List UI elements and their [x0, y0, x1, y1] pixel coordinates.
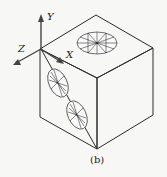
y-arrow-icon [38, 14, 44, 22]
top-ellipse-mesh [77, 32, 117, 54]
x-axis-label: X [65, 49, 74, 60]
cube-diagram: Y Z X (b) [0, 0, 167, 177]
coordinate-axes: Y Z X [13, 11, 74, 65]
z-arrow-icon [13, 59, 21, 65]
y-axis-label: Y [47, 11, 55, 22]
left-lower-ellipse-mesh [63, 98, 92, 133]
left-upper-ellipse-mesh [44, 66, 73, 101]
z-axis-label: Z [17, 43, 26, 54]
figure-caption: (b) [90, 154, 104, 165]
cube-right-face [97, 48, 153, 149]
